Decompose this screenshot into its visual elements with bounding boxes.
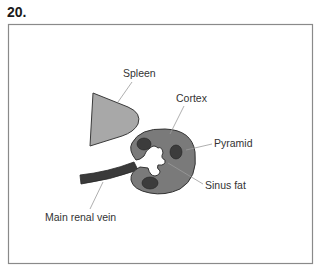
pyramid-upper-left [137,138,151,150]
pyramid-lower [142,177,158,189]
label-pyramid: Pyramid [214,137,253,149]
label-cortex: Cortex [176,92,208,104]
label-sinus-fat: Sinus fat [205,179,246,191]
label-main-renal-vein: Main renal vein [45,211,116,223]
label-spleen: Spleen [123,67,156,79]
pyramid-right [170,145,182,159]
renal-diagram: Spleen Cortex Pyramid Sinus fat Main ren… [0,0,319,272]
